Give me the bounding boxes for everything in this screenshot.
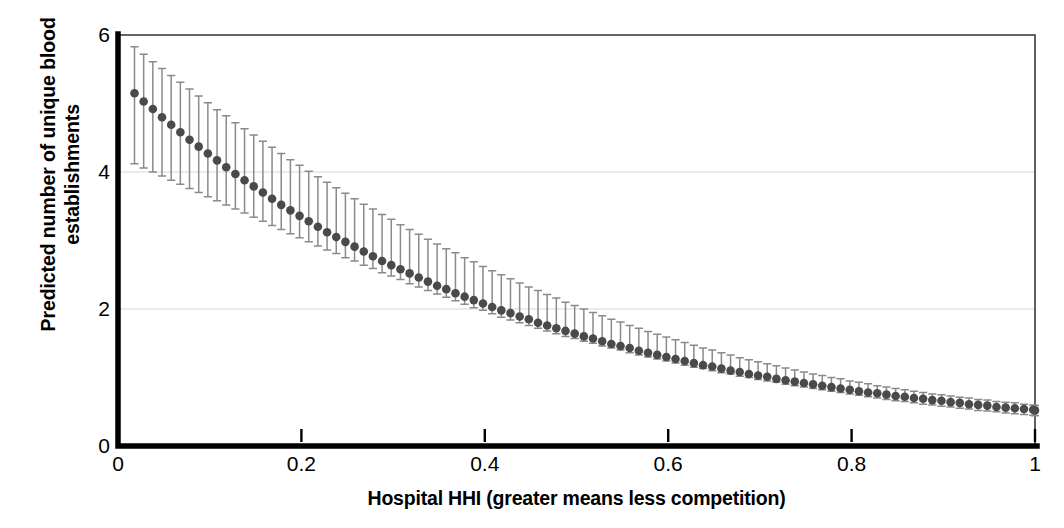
y-axis-label-line2: establishments [61, 104, 83, 245]
axis-lines [118, 34, 1037, 446]
y-tick-label: 4 [84, 160, 110, 184]
plot-canvas [0, 0, 1064, 528]
y-tick-label: 2 [84, 297, 110, 321]
x-tick-label: 0.4 [470, 452, 499, 476]
x-tick-label: 0.8 [837, 452, 866, 476]
y-tick-label: 6 [84, 23, 110, 47]
data-points [130, 89, 1039, 415]
x-tick-label: 1 [1029, 452, 1041, 476]
x-tick-label: 0.6 [654, 452, 683, 476]
y-axis-label-line1: Predicted number of unique blood [37, 17, 59, 331]
x-axis-label: Hospital HHI (greater means less competi… [118, 487, 1035, 510]
x-tick-label: 0 [112, 452, 124, 476]
y-tick-label: 0 [84, 434, 110, 458]
y-tick-labels: 0246 [84, 0, 110, 528]
chart-figure: Predicted number of unique blood establi… [0, 0, 1064, 528]
y-axis-label: Predicted number of unique blood establi… [36, 0, 85, 384]
error-bars [130, 47, 1039, 416]
x-tick-label: 0.2 [287, 452, 316, 476]
plot-frame [118, 35, 1035, 446]
